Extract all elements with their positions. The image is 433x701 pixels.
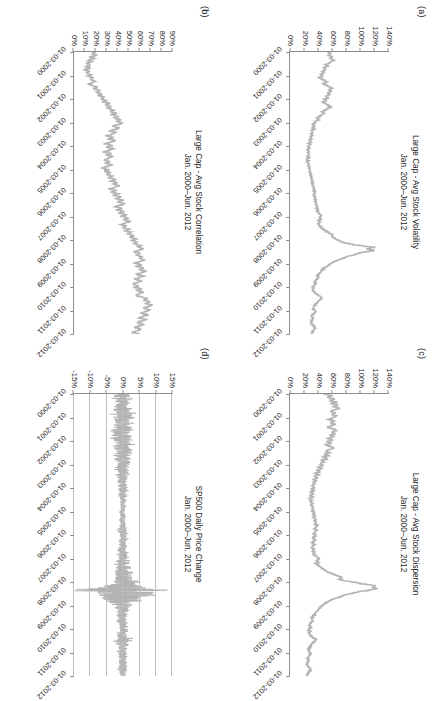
panel-d-plot-area: 15%10%5%0%-5%-10%-15% 01-03-200001-03-20… xyxy=(74,394,173,676)
y-tick-label: 140% xyxy=(385,27,394,52)
x-tick-mark xyxy=(70,99,74,100)
gridline xyxy=(172,394,173,676)
x-tick-mark xyxy=(287,441,291,442)
x-tick-mark xyxy=(287,653,291,654)
y-tick-label: 80% xyxy=(342,373,351,394)
y-tick-label: 40% xyxy=(314,373,323,394)
x-tick-mark xyxy=(70,535,74,536)
panel-d-tag: (d) xyxy=(201,348,211,360)
gridline xyxy=(155,394,156,676)
x-tick-mark xyxy=(287,193,291,194)
y-tick-label: 50% xyxy=(124,31,133,52)
y-tick-label: 70% xyxy=(146,31,155,52)
x-tick-mark xyxy=(287,99,291,100)
y-tick-label: 20% xyxy=(300,31,309,52)
x-tick-mark xyxy=(287,170,291,171)
x-tick-mark xyxy=(70,559,74,560)
y-tick-label: 40% xyxy=(113,31,122,52)
panel-c-avg-stock-dispersion: (c) Large Cap - Avg Stock Dispersion Jan… xyxy=(217,342,433,684)
x-tick-mark xyxy=(70,217,74,218)
x-tick-mark xyxy=(70,676,74,677)
y-tick-label: 20% xyxy=(91,31,100,52)
y-tick-label: 120% xyxy=(370,369,379,394)
panel-a-plot-area: 140%120%100%80%60%40%20%0% 01-03-200001-… xyxy=(291,52,390,334)
x-tick-mark xyxy=(70,629,74,630)
x-tick-mark xyxy=(287,217,291,218)
panel-d-title: SP500 Daily Price Change Jan. 2000–Jun. … xyxy=(182,394,205,674)
x-tick-mark xyxy=(70,146,74,147)
y-tick-label: 60% xyxy=(328,31,337,52)
x-tick-mark xyxy=(70,52,74,53)
x-tick-mark xyxy=(70,240,74,241)
panel-b-title: Large Cap - Avg Stock Correlation Jan. 2… xyxy=(182,52,205,332)
x-tick-mark xyxy=(287,606,291,607)
series-line xyxy=(84,52,153,334)
x-tick-mark xyxy=(70,287,74,288)
x-tick-mark xyxy=(70,653,74,654)
y-tick-label: 40% xyxy=(314,31,323,52)
series-line xyxy=(307,52,375,334)
x-tick-mark xyxy=(287,264,291,265)
x-tick-mark xyxy=(70,170,74,171)
x-tick-mark xyxy=(70,394,74,395)
y-tick-label: 0% xyxy=(70,35,79,52)
y-tick-label: 20% xyxy=(300,373,309,394)
y-tick-label: 0% xyxy=(119,377,128,394)
y-tick-label: 10% xyxy=(80,31,89,52)
panel-b-tag: (b) xyxy=(201,6,211,18)
x-tick-mark xyxy=(70,418,74,419)
panel-a-avg-stock-volatility: (a) Large Cap - Avg Stock Volatility Jan… xyxy=(217,0,433,342)
panel-c-series-canvas xyxy=(291,394,390,676)
gridline xyxy=(106,394,107,676)
x-tick-mark xyxy=(287,311,291,312)
x-tick-mark xyxy=(287,418,291,419)
y-tick-label: -10% xyxy=(86,370,95,394)
x-tick-mark xyxy=(70,123,74,124)
gridline xyxy=(89,394,90,676)
y-tick-label: 90% xyxy=(168,31,177,52)
y-tick-label: 60% xyxy=(135,31,144,52)
x-tick-mark xyxy=(287,287,291,288)
x-tick-mark xyxy=(70,334,74,335)
y-tick-label: -5% xyxy=(102,374,111,394)
x-tick-mark xyxy=(287,123,291,124)
x-tick-mark xyxy=(70,465,74,466)
series-line xyxy=(306,394,376,676)
x-tick-mark xyxy=(287,488,291,489)
x-tick-mark xyxy=(70,264,74,265)
panel-c-title: Large Cap - Avg Stock Dispersion Jan. 20… xyxy=(398,394,421,674)
x-tick-mark xyxy=(287,240,291,241)
y-tick-label: 100% xyxy=(356,27,365,52)
x-tick-mark xyxy=(70,311,74,312)
x-tick-mark xyxy=(70,441,74,442)
y-tick-label: 5% xyxy=(135,377,144,394)
y-tick-label: 0% xyxy=(286,377,295,394)
x-tick-mark xyxy=(287,512,291,513)
x-tick-mark xyxy=(70,488,74,489)
x-tick-mark xyxy=(287,629,291,630)
x-tick-mark xyxy=(287,559,291,560)
x-tick-mark xyxy=(287,76,291,77)
panel-b-plot-area: 90%80%70%60%50%40%30%20%10%0% 01-03-2000… xyxy=(74,52,173,334)
x-tick-mark xyxy=(287,582,291,583)
panel-b-series-canvas xyxy=(74,52,173,334)
x-tick-mark xyxy=(70,193,74,194)
x-tick-mark xyxy=(70,512,74,513)
y-tick-label: 0% xyxy=(286,35,295,52)
panel-b-avg-stock-correlation: (b) Large Cap - Avg Stock Correlation Ja… xyxy=(0,0,217,342)
panel-a-title: Large Cap - Avg Stock Volatility Jan. 20… xyxy=(398,52,421,332)
y-tick-label: -15% xyxy=(70,370,79,394)
x-tick-mark xyxy=(287,146,291,147)
gridline xyxy=(122,394,123,676)
y-tick-label: 15% xyxy=(168,373,177,394)
x-tick-mark xyxy=(70,606,74,607)
y-tick-label: 60% xyxy=(328,373,337,394)
y-tick-label: 80% xyxy=(157,31,166,52)
x-tick-mark xyxy=(70,582,74,583)
y-tick-label: 30% xyxy=(102,31,111,52)
x-tick-mark xyxy=(287,676,291,677)
y-tick-label: 140% xyxy=(385,369,394,394)
x-tick-mark xyxy=(70,76,74,77)
